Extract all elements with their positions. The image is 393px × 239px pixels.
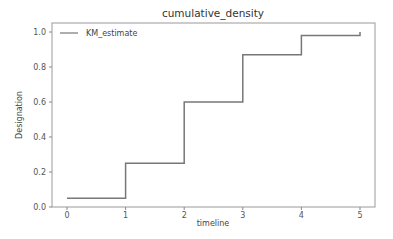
x-tick-label: 1 [123,211,128,220]
chart: cumulative_density 0.00.20.40.60.81.0 01… [0,0,393,239]
x-tick-label: 5 [357,211,362,220]
x-tick-label: 4 [299,211,304,220]
x-tick-label: 2 [182,211,187,220]
legend-label: KM_estimate [86,29,137,38]
y-tick-label: 1.0 [33,28,46,37]
y-tick-label: 0.0 [33,203,46,212]
y-axis: 0.00.20.40.60.81.0 [33,28,52,212]
x-tick-label: 0 [64,211,69,220]
y-tick-label: 0.2 [33,168,46,177]
x-axis-label: timeline [197,219,230,228]
chart-title: cumulative_density [162,7,264,20]
legend: KM_estimate [60,29,137,38]
y-tick-label: 0.8 [33,63,46,72]
x-tick-label: 3 [240,211,245,220]
plot-frame [52,23,375,207]
y-tick-label: 0.4 [33,133,46,142]
km-estimate-line [67,32,360,198]
y-axis-label: Designation [15,91,24,139]
y-tick-label: 0.6 [33,98,46,107]
